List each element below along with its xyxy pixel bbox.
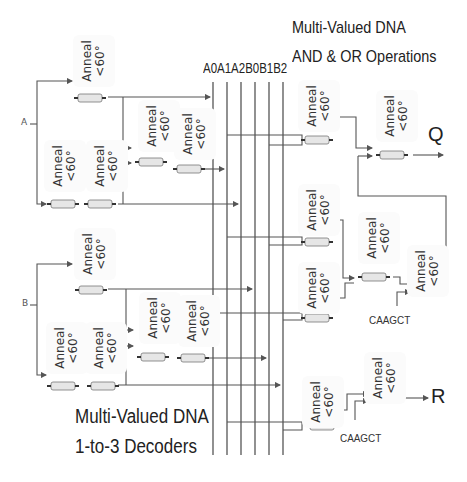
anneal-box: Anneal<60° [178, 295, 220, 347]
anneal-box: Anneal<60° [174, 108, 216, 160]
anneal-box: Anneal<60° [74, 228, 116, 280]
bus-lines [213, 82, 283, 455]
anneal-box: Anneal<60° [44, 140, 86, 192]
anneal-box: Anneal<60° [298, 80, 340, 132]
anneal-box: Anneal<60° [298, 262, 340, 314]
anneal-box: Anneal<60° [85, 322, 127, 374]
input-a-label: A [21, 117, 27, 127]
anneal-box: Anneal<60° [46, 322, 88, 374]
anneal-box: Anneal<60° [358, 212, 400, 264]
output-r-label: R [431, 385, 445, 408]
anneal-box: Anneal<60° [376, 90, 418, 142]
decoder-title-line1: Multi-Valued DNA [75, 405, 209, 428]
anneal-box: Anneal<60° [298, 184, 340, 236]
output-q-label: Q [428, 123, 444, 146]
anneal-box: Anneal<60° [407, 245, 449, 297]
decoder-title-line2: 1-to-3 Decoders [75, 435, 197, 458]
and-or-title-line2: AND & OR Operations [292, 47, 437, 67]
dna-logic-diagram: Multi-Valued DNA AND & OR Operations Mul… [0, 0, 467, 482]
input-b-label: B [22, 298, 28, 308]
anneal-box: Anneal<60° [139, 292, 181, 344]
anneal-box: Anneal<60° [302, 376, 344, 428]
sequence-label: CAAGCT [340, 432, 381, 444]
bus-label: A0A1A2B0B1B2 [203, 60, 287, 76]
sequence-label: CAAGCT [369, 314, 410, 326]
anneal-box: Anneal<60° [73, 35, 115, 87]
and-or-title-line1: Multi-Valued DNA [292, 18, 406, 38]
anneal-box: Anneal<60° [364, 352, 406, 404]
anneal-box: Anneal<60° [86, 140, 128, 192]
